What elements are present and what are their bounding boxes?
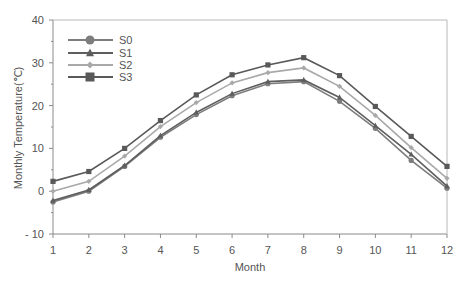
legend: S0S1S2S3: [68, 34, 132, 83]
series-s3: [50, 55, 449, 184]
square-marker: [373, 104, 378, 109]
x-tick-label: 7: [265, 244, 271, 256]
series-s1: [50, 77, 449, 203]
x-tick-label: 6: [229, 244, 235, 256]
square-marker: [122, 146, 127, 151]
x-tick-label: 5: [193, 244, 199, 256]
square-marker: [86, 73, 95, 82]
y-tick-label: 0: [38, 185, 44, 197]
x-tick-label: 4: [157, 244, 163, 256]
diamond-marker: [50, 189, 55, 194]
legend-label: S1: [119, 47, 132, 59]
x-tick-label: 10: [369, 244, 381, 256]
square-marker: [301, 55, 306, 60]
square-marker: [444, 164, 449, 169]
x-tick-label: 8: [301, 244, 307, 256]
x-tick-label: 2: [86, 244, 92, 256]
series-s0: [50, 79, 449, 204]
y-tick-label: 30: [32, 57, 44, 69]
y-tick-label: 40: [32, 14, 44, 26]
legend-item-s3: S3: [68, 71, 132, 83]
diamond-marker: [265, 70, 270, 75]
y-tick-label: 20: [32, 100, 44, 112]
line-chart: - 10010203040 123456789101112 S0S1S2S3 M…: [0, 0, 464, 284]
y-axis-title: Monthly Temperature(℃): [12, 67, 24, 189]
x-axis-title: Month: [235, 261, 266, 273]
square-marker: [158, 118, 163, 123]
x-tick-label: 12: [441, 244, 453, 256]
legend-item-s0: S0: [68, 34, 132, 46]
x-tick-label: 11: [405, 244, 416, 256]
square-marker: [229, 72, 234, 77]
series-line: [53, 82, 447, 202]
y-axis-ticks: - 10010203040: [25, 14, 53, 240]
circle-marker: [86, 36, 95, 45]
square-marker: [409, 134, 414, 139]
square-marker: [265, 62, 270, 67]
y-tick-label: 10: [32, 142, 44, 154]
x-tick-label: 3: [122, 244, 128, 256]
square-marker: [86, 169, 91, 174]
y-tick-label: - 10: [25, 228, 44, 240]
circle-marker: [409, 158, 414, 163]
square-marker: [337, 73, 342, 78]
x-axis-ticks: 123456789101112: [50, 234, 453, 256]
x-tick-label: 9: [336, 244, 342, 256]
series-line: [53, 68, 447, 191]
x-tick-label: 1: [50, 244, 56, 256]
legend-item-s1: S1: [68, 47, 132, 59]
diamond-marker: [87, 62, 94, 69]
legend-label: S2: [119, 59, 132, 71]
square-marker: [194, 92, 199, 97]
legend-item-s2: S2: [68, 59, 132, 71]
legend-label: S0: [119, 34, 132, 46]
square-marker: [50, 179, 55, 184]
legend-label: S3: [119, 71, 132, 83]
